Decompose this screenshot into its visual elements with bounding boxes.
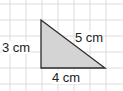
diagram-canvas: 3 cm 5 cm 4 cm (0, 0, 123, 91)
bottom-side-label: 4 cm (52, 71, 80, 84)
hypotenuse-label: 5 cm (75, 31, 103, 44)
left-side-label: 3 cm (2, 41, 30, 54)
